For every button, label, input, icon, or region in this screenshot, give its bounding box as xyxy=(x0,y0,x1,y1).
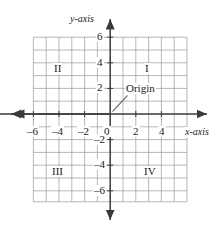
y-axis-label: y-axis xyxy=(69,14,95,24)
origin-leader-line xyxy=(113,96,128,112)
x-axis-label: x-axis xyxy=(184,127,210,137)
y-tick-label-neg6: –6 xyxy=(93,185,106,196)
y-tick-label-pos4: 4 xyxy=(96,57,104,68)
x-tick-label-pos2: 2 xyxy=(132,126,140,137)
x-tick-label-neg6: –6 xyxy=(26,126,39,137)
x-tick-label-pos4: 4 xyxy=(158,126,166,137)
quadrant-4-label: IV xyxy=(143,166,157,177)
quadrant-3-label: III xyxy=(51,166,64,177)
quadrant-1-label: I xyxy=(144,63,150,74)
y-tick-label-pos6: 6 xyxy=(96,31,104,42)
origin-label: Origin xyxy=(125,83,156,94)
coordinate-plane-figure: y-axis x-axis –6 –4 –2 0 2 4 6 4 2 –2 –4… xyxy=(0,0,223,232)
x-tick-label-neg2: –2 xyxy=(77,126,90,137)
coordinate-plane-svg xyxy=(0,0,223,232)
x-tick-label-neg4: –4 xyxy=(51,126,64,137)
quadrant-2-label: II xyxy=(53,63,62,74)
y-tick-label-pos2: 2 xyxy=(96,82,104,93)
y-tick-label-neg4: –4 xyxy=(93,159,106,170)
y-tick-label-neg2: –2 xyxy=(93,134,106,145)
